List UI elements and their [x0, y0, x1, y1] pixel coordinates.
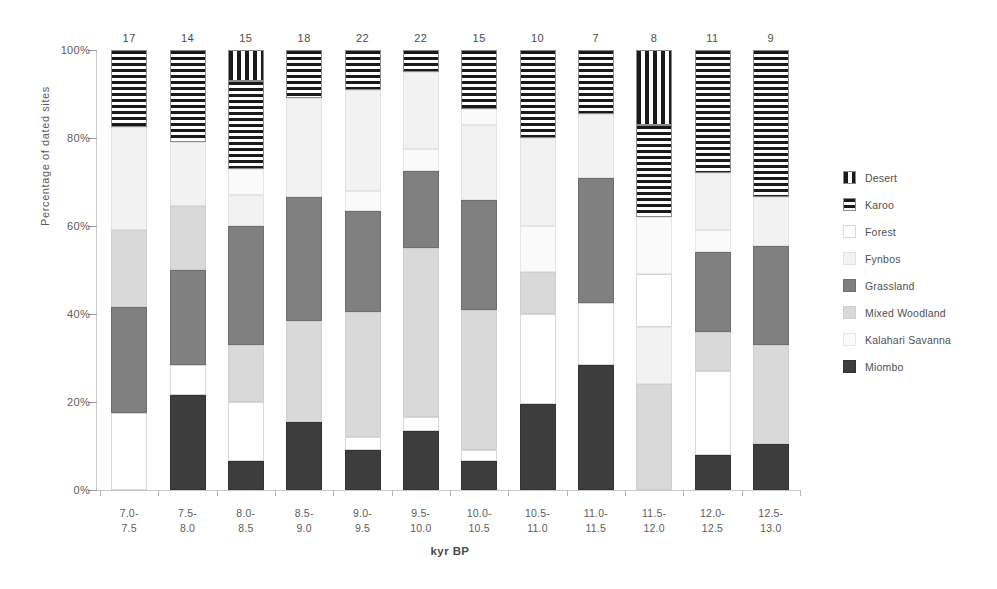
bar-11.0-11.5[interactable]: 7: [578, 50, 614, 490]
bar-segment-miombo[interactable]: [403, 431, 439, 490]
bar-segment-karoo[interactable]: [228, 81, 264, 169]
legend-item-kalahari[interactable]: Kalahari Savanna: [843, 326, 993, 353]
bar-segment-mixed-woodland[interactable]: [461, 310, 497, 451]
bar-segment-karoo[interactable]: [286, 50, 322, 98]
legend-item-fynbos[interactable]: Fynbos: [843, 245, 993, 272]
y-axis-tick-label: 40%: [40, 308, 90, 320]
bar-segment-karoo[interactable]: [111, 50, 147, 127]
bar-segment-forest[interactable]: [578, 303, 614, 365]
bar-segment-mixed-woodland[interactable]: [403, 248, 439, 417]
bar-segment-miombo[interactable]: [753, 444, 789, 490]
bar-segment-miombo[interactable]: [345, 450, 381, 490]
legend-swatch-miombo-icon: [843, 360, 856, 373]
bar-10.5-11.0[interactable]: 10: [520, 50, 556, 490]
bar-12.0-12.5[interactable]: 11: [695, 50, 731, 490]
bar-segment-mixed-woodland[interactable]: [111, 230, 147, 307]
legend-item-mixed[interactable]: Mixed Woodland: [843, 299, 993, 326]
bar-segment-forest[interactable]: [403, 417, 439, 430]
bar-segment-mixed-woodland[interactable]: [228, 345, 264, 402]
bar-segment-mixed-woodland[interactable]: [753, 345, 789, 444]
bar-segment-fynbos[interactable]: [695, 173, 731, 230]
bar-7.0-7.5[interactable]: 17: [111, 50, 147, 490]
bar-segment-fynbos[interactable]: [170, 142, 206, 206]
bar-segment-forest[interactable]: [695, 371, 731, 455]
bar-segment-fynbos[interactable]: [345, 90, 381, 191]
bar-segment-grassland[interactable]: [753, 246, 789, 345]
bar-segment-kalahari-savanna[interactable]: [520, 226, 556, 272]
bar-segment-karoo[interactable]: [461, 50, 497, 109]
legend-item-karoo[interactable]: Karoo: [843, 191, 993, 218]
bar-segment-kalahari-savanna[interactable]: [403, 149, 439, 171]
bar-8.0-8.5[interactable]: 15: [228, 50, 264, 490]
bar-segment-forest[interactable]: [461, 450, 497, 461]
bar-segment-fynbos[interactable]: [578, 114, 614, 178]
bar-segment-forest[interactable]: [636, 274, 672, 327]
bar-segment-mixed-woodland[interactable]: [286, 321, 322, 422]
bar-8.5-9.0[interactable]: 18: [286, 50, 322, 490]
bar-segment-mixed-woodland[interactable]: [520, 272, 556, 314]
bar-segment-fynbos[interactable]: [286, 98, 322, 197]
bar-11.5-12.0[interactable]: 8: [636, 50, 672, 490]
bar-segment-grassland[interactable]: [170, 270, 206, 365]
bar-7.5-8.0[interactable]: 14: [170, 50, 206, 490]
bar-segment-fynbos[interactable]: [228, 195, 264, 226]
bar-segment-grassland[interactable]: [228, 226, 264, 345]
bar-segment-karoo[interactable]: [636, 125, 672, 217]
bar-segment-karoo[interactable]: [578, 50, 614, 114]
bar-segment-grassland[interactable]: [461, 200, 497, 310]
bar-segment-fynbos[interactable]: [636, 327, 672, 384]
legend-item-miombo[interactable]: Miombo: [843, 353, 993, 380]
bar-segment-forest[interactable]: [228, 402, 264, 461]
x-axis-tick: [275, 490, 276, 496]
bar-segment-grassland[interactable]: [286, 197, 322, 320]
bar-12.5-13.0[interactable]: 9: [753, 50, 789, 490]
bar-segment-fynbos[interactable]: [520, 138, 556, 226]
bar-segment-miombo[interactable]: [520, 404, 556, 490]
bar-segment-desert[interactable]: [228, 50, 264, 81]
bar-segment-karoo[interactable]: [695, 50, 731, 173]
bar-segment-karoo[interactable]: [345, 50, 381, 90]
bar-segment-kalahari-savanna[interactable]: [345, 191, 381, 211]
bar-segment-kalahari-savanna[interactable]: [228, 169, 264, 195]
bar-segment-grassland[interactable]: [578, 178, 614, 303]
bar-segment-mixed-woodland[interactable]: [695, 332, 731, 372]
bar-segment-grassland[interactable]: [111, 307, 147, 413]
bar-segment-karoo[interactable]: [403, 50, 439, 72]
bar-segment-fynbos[interactable]: [111, 127, 147, 230]
bar-segment-miombo[interactable]: [228, 461, 264, 490]
bar-segment-forest[interactable]: [111, 413, 147, 490]
bar-segment-forest[interactable]: [170, 365, 206, 396]
bar-segment-miombo[interactable]: [286, 422, 322, 490]
bar-segment-miombo[interactable]: [695, 455, 731, 490]
x-axis-label-line2: 13.0: [742, 521, 800, 536]
bar-segment-grassland[interactable]: [403, 171, 439, 248]
bar-segment-desert[interactable]: [636, 50, 672, 125]
bar-segment-fynbos[interactable]: [753, 197, 789, 245]
bar-segment-kalahari-savanna[interactable]: [695, 230, 731, 252]
x-axis-label-line2: 12.0: [625, 521, 683, 536]
legend-item-desert[interactable]: Desert: [843, 164, 993, 191]
bar-9.0-9.5[interactable]: 22: [345, 50, 381, 490]
bar-segment-fynbos[interactable]: [461, 125, 497, 200]
bar-segment-miombo[interactable]: [170, 395, 206, 490]
bar-segment-fynbos[interactable]: [403, 72, 439, 149]
legend-label: Kalahari Savanna: [865, 334, 951, 346]
bar-segment-mixed-woodland[interactable]: [170, 206, 206, 270]
bar-segment-forest[interactable]: [345, 437, 381, 450]
bar-segment-kalahari-savanna[interactable]: [636, 217, 672, 274]
bar-segment-kalahari-savanna[interactable]: [461, 109, 497, 124]
bar-segment-grassland[interactable]: [345, 211, 381, 312]
bar-segment-karoo[interactable]: [753, 50, 789, 197]
bar-segment-forest[interactable]: [520, 314, 556, 404]
legend-item-forest[interactable]: Forest: [843, 218, 993, 245]
bar-segment-mixed-woodland[interactable]: [636, 384, 672, 490]
bar-segment-karoo[interactable]: [170, 50, 206, 142]
bar-10.0-10.5[interactable]: 15: [461, 50, 497, 490]
bar-segment-miombo[interactable]: [461, 461, 497, 490]
bar-segment-grassland[interactable]: [695, 252, 731, 331]
bar-segment-karoo[interactable]: [520, 50, 556, 138]
bar-segment-miombo[interactable]: [578, 365, 614, 490]
bar-segment-mixed-woodland[interactable]: [345, 312, 381, 437]
legend-item-grass[interactable]: Grassland: [843, 272, 993, 299]
bar-9.5-10.0[interactable]: 22: [403, 50, 439, 490]
